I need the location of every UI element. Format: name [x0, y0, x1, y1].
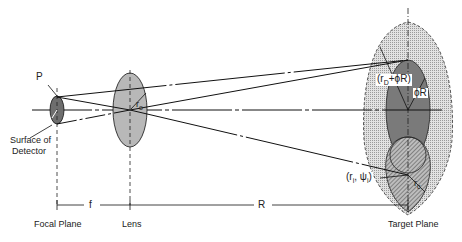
- label-target-plane: Target Plane: [388, 220, 439, 229]
- label-spot-radius: rc: [414, 179, 421, 190]
- label-surface-2: Detector: [12, 147, 46, 156]
- label-lens: Lens: [122, 220, 142, 229]
- label-p: P: [36, 72, 43, 82]
- label-image-point: (ri, ψi): [345, 172, 373, 184]
- label-focal-plane: Focal Plane: [34, 220, 82, 229]
- label-outer-radius: (rD+ϕR): [376, 74, 412, 86]
- label-surface-1: Surface of: [10, 136, 51, 145]
- label-R: R: [258, 200, 265, 210]
- optics-diagram: [0, 0, 462, 242]
- label-lens-radius: ro: [136, 100, 143, 111]
- label-f: f: [89, 200, 92, 210]
- label-phi-r: ϕR: [413, 88, 428, 98]
